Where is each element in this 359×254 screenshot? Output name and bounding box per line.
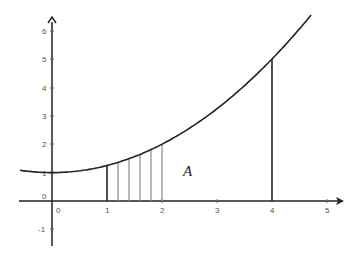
y-tick-4: 4 [42,84,47,93]
x-tick-2: 2 [160,206,165,215]
x-axis [19,197,344,205]
function-curve [20,15,311,173]
x-tick-4: 4 [270,206,275,215]
x-tick-3: 3 [215,206,220,215]
y-tick-1: 1 [42,169,47,178]
function-graph: 0 1 2 3 4 5 6 5 4 3 2 1 0 -1 A [0,0,359,254]
x-tick-5: 5 [325,206,330,215]
y-tick-3: 3 [42,112,47,121]
y-tick-5: 5 [42,55,47,64]
y-axis [48,17,56,246]
y-tick-0: 0 [42,192,47,201]
y-tick-2: 2 [42,140,47,149]
x-tick-1: 1 [105,206,110,215]
x-tick-0: 0 [56,206,61,215]
y-tick-minus-1: -1 [38,225,46,234]
y-tick-6: 6 [42,27,47,36]
region-label-a: A [182,163,193,179]
riemann-strips [118,144,162,201]
x-tick-labels: 0 1 2 3 4 5 [56,206,330,215]
y-tick-labels: 6 5 4 3 2 1 0 -1 [38,27,47,234]
